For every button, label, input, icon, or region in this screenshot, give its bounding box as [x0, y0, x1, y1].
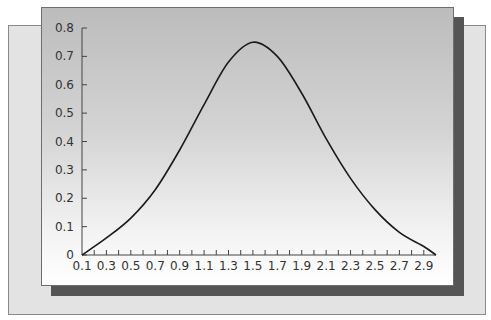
- x-tick-label: 0.5: [121, 259, 140, 273]
- y-tick-label: 0.2: [55, 191, 74, 205]
- x-tick-label: 0.9: [170, 259, 189, 273]
- y-tick-label: 0.7: [55, 49, 74, 63]
- x-tick-label: 0.1: [72, 259, 91, 273]
- x-tick-label: 2.5: [365, 259, 384, 273]
- x-axis: 0.10.30.50.70.91.11.31.51.71.92.12.32.52…: [72, 250, 436, 273]
- line-chart: 00.10.20.30.40.50.60.70.8 0.10.30.50.70.…: [0, 0, 491, 320]
- x-tick-label: 2.9: [414, 259, 433, 273]
- y-tick-label: 0.5: [55, 106, 74, 120]
- x-tick-label: 1.3: [219, 259, 238, 273]
- y-tick-label: 0.6: [55, 78, 74, 92]
- y-axis: 00.10.20.30.40.50.60.70.8: [55, 21, 87, 262]
- x-tick-label: 2.7: [390, 259, 409, 273]
- x-tick-label: 2.1: [317, 259, 336, 273]
- x-tick-label: 1.7: [268, 259, 287, 273]
- y-tick-label: 0.3: [55, 163, 74, 177]
- y-tick-label: 0.4: [55, 135, 74, 149]
- x-tick-label: 0.7: [146, 259, 165, 273]
- x-tick-label: 2.3: [341, 259, 360, 273]
- x-tick-label: 1.9: [292, 259, 311, 273]
- bell-curve-line: [82, 42, 436, 255]
- y-tick-label: 0.1: [55, 220, 74, 234]
- x-tick-label: 1.5: [243, 259, 262, 273]
- y-tick-label: 0.8: [55, 21, 74, 35]
- x-tick-label: 0.3: [97, 259, 116, 273]
- x-tick-label: 1.1: [195, 259, 214, 273]
